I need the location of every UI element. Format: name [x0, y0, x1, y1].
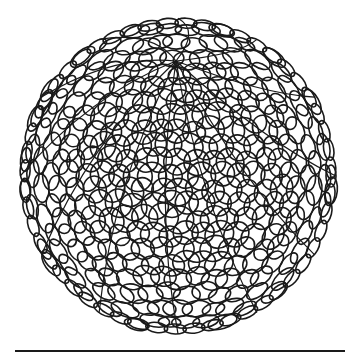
sphere-drawing [0, 0, 358, 358]
